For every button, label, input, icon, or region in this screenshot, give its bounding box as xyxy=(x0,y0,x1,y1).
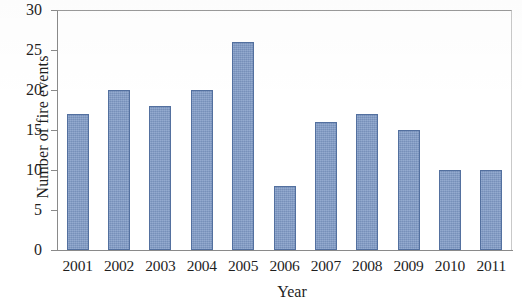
bars-layer xyxy=(57,10,512,250)
x-tick-label-2001: 2001 xyxy=(55,258,101,274)
bar-2006 xyxy=(274,186,296,250)
bar-chart: Number of fire events 30 25 20 15 10 5 0… xyxy=(0,0,522,306)
y-tick-label-25: 25 xyxy=(8,42,42,58)
x-tick-label-2007: 2007 xyxy=(303,258,349,274)
x-tick-label-2006: 2006 xyxy=(262,258,308,274)
y-tick-label-20: 20 xyxy=(8,82,42,98)
y-tick-label-15: 15 xyxy=(8,122,42,138)
bar-2008 xyxy=(356,114,378,250)
bar-2002 xyxy=(108,90,130,250)
bar-2010 xyxy=(439,170,461,250)
y-tick-label-30: 30 xyxy=(8,2,42,18)
bar-2007 xyxy=(315,122,337,250)
bar-2001 xyxy=(67,114,89,250)
x-tick-label-2009: 2009 xyxy=(386,258,432,274)
bar-2005 xyxy=(232,42,254,250)
x-axis-baseline xyxy=(57,250,513,251)
y-tick-label-5: 5 xyxy=(8,202,42,218)
x-tick-label-2010: 2010 xyxy=(427,258,473,274)
bar-2009 xyxy=(398,130,420,250)
bar-2003 xyxy=(149,106,171,250)
x-tick-label-2008: 2008 xyxy=(344,258,390,274)
y-tick-label-10: 10 xyxy=(8,162,42,178)
x-axis-title: Year xyxy=(0,283,522,301)
x-tick-label-2002: 2002 xyxy=(96,258,142,274)
x-tick-label-2003: 2003 xyxy=(137,258,183,274)
x-tick-label-2011: 2011 xyxy=(468,258,514,274)
bar-2004 xyxy=(191,90,213,250)
y-tick-label-0: 0 xyxy=(8,242,42,258)
x-tick-label-2005: 2005 xyxy=(220,258,266,274)
bar-2011 xyxy=(480,170,502,250)
x-tick-label-2004: 2004 xyxy=(179,258,225,274)
